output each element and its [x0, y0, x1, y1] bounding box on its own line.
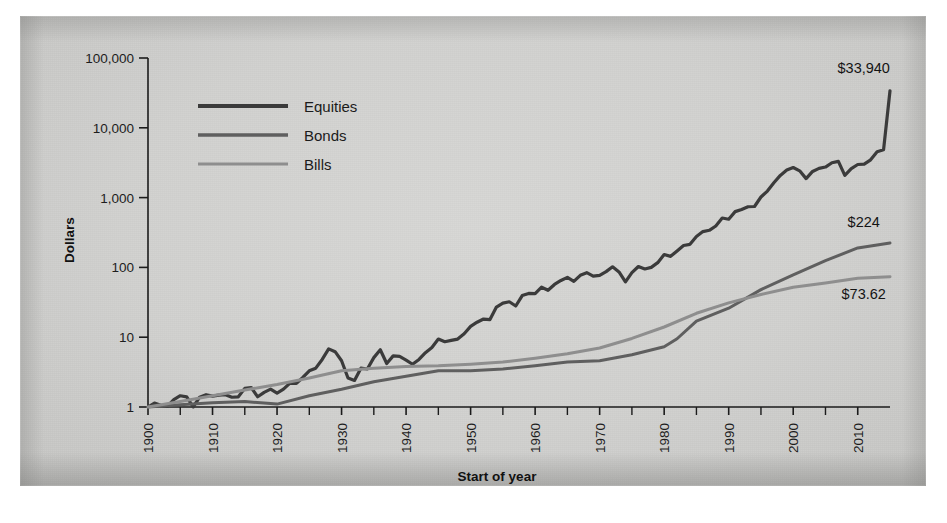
y-tick-label: 1 — [126, 400, 134, 415]
annotation-bonds: $224 — [848, 214, 880, 230]
x-tick-label: 1970 — [593, 423, 608, 453]
series-line-bills — [148, 277, 890, 407]
x-tick-label: 2010 — [851, 423, 866, 453]
x-tick-label: 1930 — [335, 423, 350, 453]
annotation-bills: $73.62 — [842, 286, 886, 302]
y-tick-label: 10 — [119, 330, 134, 345]
chart-page: 100,00010,0001,000100101 190019101920193… — [0, 0, 947, 523]
x-axis-tick-labels: 1900191019201930194019501960197019801990… — [141, 423, 866, 453]
x-tick-label: 1940 — [399, 423, 414, 453]
y-tick-label: 1,000 — [100, 191, 134, 206]
x-axis-title: Start of year — [458, 469, 538, 484]
annotation-equities: $33,940 — [838, 60, 890, 76]
chart-legend: EquitiesBondsBills — [198, 98, 357, 173]
data-series-group — [148, 91, 890, 407]
legend-label-bonds: Bonds — [304, 127, 347, 144]
x-axis-ticks — [148, 407, 858, 415]
x-tick-label: 1900 — [141, 423, 156, 453]
y-tick-label: 10,000 — [93, 121, 134, 136]
x-tick-label: 1990 — [722, 423, 737, 453]
x-tick-label: 1980 — [657, 423, 672, 453]
x-tick-label: 1950 — [464, 423, 479, 453]
y-tick-label: 100,000 — [85, 51, 134, 66]
axis-lines — [148, 58, 890, 407]
y-tick-label: 100 — [111, 260, 134, 275]
y-axis-title: Dollars — [62, 217, 77, 263]
x-tick-label: 1960 — [528, 423, 543, 453]
y-axis-tick-labels: 100,00010,0001,000100101 — [85, 51, 134, 415]
series-end-annotations: $33,940$224$73.62 — [838, 60, 890, 302]
series-line-bonds — [148, 243, 890, 407]
x-tick-label: 2000 — [786, 423, 801, 453]
x-tick-label: 1910 — [206, 423, 221, 453]
log-growth-line-chart: 100,00010,0001,000100101 190019101920193… — [0, 0, 947, 523]
legend-label-equities: Equities — [304, 98, 357, 115]
x-tick-label: 1920 — [270, 423, 285, 453]
y-axis-ticks — [139, 58, 148, 407]
legend-label-bills: Bills — [304, 156, 332, 173]
